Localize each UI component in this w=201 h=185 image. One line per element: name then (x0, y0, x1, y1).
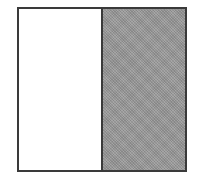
square-frame (17, 7, 187, 172)
left-half-white (19, 9, 101, 170)
right-half-shaded (103, 9, 185, 170)
